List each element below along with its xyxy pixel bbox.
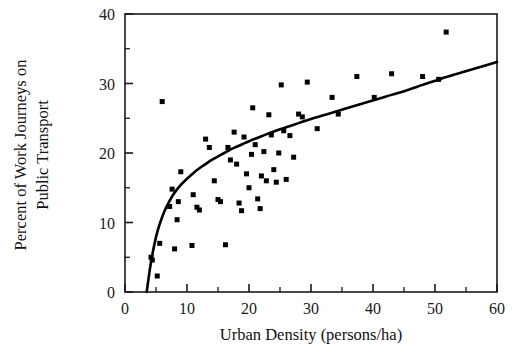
y-tick-label: 20 bbox=[99, 145, 115, 162]
data-point bbox=[300, 114, 305, 119]
data-point bbox=[315, 126, 320, 131]
scatter-plot-svg: 0102030405060 010203040 Urban Density (p… bbox=[0, 0, 514, 350]
data-point bbox=[354, 74, 359, 79]
data-point bbox=[284, 177, 289, 182]
data-point bbox=[305, 80, 310, 85]
x-axis-tick-labels: 0102030405060 bbox=[121, 300, 505, 317]
data-point bbox=[269, 132, 274, 137]
data-point bbox=[258, 206, 263, 211]
y-axis-title-line-1: Percent of Work Journeys on bbox=[11, 60, 30, 251]
y-tick-label: 0 bbox=[107, 284, 115, 301]
data-point bbox=[197, 207, 202, 212]
data-point bbox=[160, 99, 165, 104]
plot-border bbox=[125, 14, 497, 292]
data-point bbox=[291, 155, 296, 160]
data-point bbox=[228, 157, 233, 162]
plot-frame bbox=[125, 14, 497, 292]
data-point bbox=[244, 171, 249, 176]
data-point bbox=[191, 192, 196, 197]
data-point bbox=[189, 243, 194, 248]
y-tick-label: 10 bbox=[99, 215, 115, 232]
y-axis-major-ticks bbox=[125, 14, 133, 292]
data-point bbox=[249, 152, 254, 157]
chart-figure: 0102030405060 010203040 Urban Density (p… bbox=[0, 0, 514, 350]
data-point bbox=[279, 82, 284, 87]
data-point bbox=[330, 95, 335, 100]
data-point bbox=[276, 151, 281, 156]
y-axis-title-group: Percent of Work Journeys on Public Trans… bbox=[11, 60, 52, 251]
data-point bbox=[207, 145, 212, 150]
data-point bbox=[155, 274, 160, 279]
data-point bbox=[389, 71, 394, 76]
y-axis-tick-labels: 010203040 bbox=[99, 6, 115, 301]
data-point bbox=[444, 30, 449, 35]
data-point bbox=[287, 133, 292, 138]
y-tick-label: 40 bbox=[99, 6, 115, 23]
data-point bbox=[178, 169, 183, 174]
data-point bbox=[281, 128, 286, 133]
x-tick-label: 50 bbox=[427, 300, 443, 317]
x-axis-major-ticks bbox=[125, 284, 497, 292]
data-point bbox=[247, 185, 252, 190]
data-point bbox=[212, 178, 217, 183]
data-point bbox=[175, 217, 180, 222]
data-point bbox=[237, 201, 242, 206]
data-point bbox=[170, 187, 175, 192]
x-tick-label: 60 bbox=[489, 300, 505, 317]
data-point bbox=[274, 180, 279, 185]
x-tick-label: 40 bbox=[365, 300, 381, 317]
x-axis-title-group: Urban Density (persons/ha) bbox=[220, 325, 402, 344]
data-point bbox=[218, 199, 223, 204]
x-tick-label: 30 bbox=[303, 300, 319, 317]
data-point bbox=[225, 145, 230, 150]
data-point bbox=[266, 112, 271, 117]
data-point bbox=[234, 162, 239, 167]
x-tick-label: 20 bbox=[241, 300, 257, 317]
data-point bbox=[372, 95, 377, 100]
data-point bbox=[223, 242, 228, 247]
trend-curve bbox=[147, 62, 497, 292]
data-point bbox=[167, 204, 172, 209]
data-point bbox=[157, 241, 162, 246]
y-axis-title-line-2: Public Transport bbox=[33, 100, 52, 210]
data-point bbox=[271, 167, 276, 172]
data-point bbox=[239, 208, 244, 213]
scatter-data-points bbox=[149, 30, 449, 279]
data-point bbox=[203, 137, 208, 142]
x-axis-title: Urban Density (persons/ha) bbox=[220, 325, 402, 344]
data-point bbox=[255, 196, 260, 201]
data-point bbox=[242, 135, 247, 140]
data-point bbox=[420, 74, 425, 79]
data-point bbox=[259, 173, 264, 178]
data-point bbox=[232, 130, 237, 135]
data-point bbox=[261, 149, 266, 154]
x-tick-label: 10 bbox=[179, 300, 195, 317]
data-point bbox=[336, 112, 341, 117]
data-point bbox=[172, 246, 177, 251]
y-tick-label: 30 bbox=[99, 76, 115, 93]
data-point bbox=[253, 142, 258, 147]
data-point bbox=[264, 178, 269, 183]
data-point bbox=[176, 199, 181, 204]
data-point bbox=[250, 105, 255, 110]
x-tick-label: 0 bbox=[121, 300, 129, 317]
data-point bbox=[436, 77, 441, 82]
data-point bbox=[150, 258, 155, 263]
